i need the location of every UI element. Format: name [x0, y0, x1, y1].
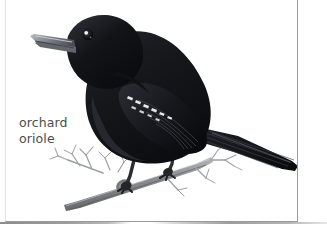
branch-shadow: [69, 165, 206, 210]
branch-highlight: [66, 159, 210, 206]
eye-highlight-secondary: [90, 37, 92, 39]
bird-illustration-svg: [6, 0, 298, 222]
bird-illustration: [6, 0, 298, 222]
eye: [83, 30, 93, 40]
eye-group: [81, 28, 94, 41]
page-fold-shadow: [0, 222, 327, 224]
caption-line-1: orchard: [19, 115, 129, 131]
illustration-card: orchard oriole: [5, 0, 298, 222]
eye-highlight: [84, 31, 88, 35]
head-group: [67, 15, 150, 94]
caption-line-2: oriole: [19, 131, 129, 147]
tail-group: [200, 128, 298, 171]
species-caption: orchard oriole: [19, 115, 129, 146]
field-guide-page: orchard oriole: [0, 0, 327, 239]
